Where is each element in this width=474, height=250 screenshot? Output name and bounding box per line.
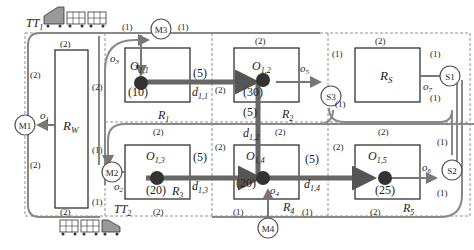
svg-text:(30): (30) [243,85,263,99]
machine-m2: M2 [102,162,122,182]
svg-text:(2): (2) [370,207,381,217]
machine-s2: S2 [442,160,462,180]
svg-text:o6: o6 [422,161,432,175]
svg-text:o1: o1 [40,109,49,123]
svg-text:(2): (2) [215,85,226,95]
svg-text:(2): (2) [92,82,103,92]
svg-text:R5: R5 [402,201,414,217]
production-layout-diagram: M1 M2 M3 M4 S1 S2 S3 TT1 TT2 RW RS R1 R2… [0,0,474,250]
svg-text:(1): (1) [178,22,189,32]
svg-text:S2: S2 [447,166,457,176]
svg-text:(2): (2) [153,207,164,217]
svg-text:(10): (10) [128,85,148,99]
machine-m3: M3 [151,19,171,39]
svg-text:(2): (2) [378,127,389,137]
svg-text:(5): (5) [305,152,319,166]
svg-text:(25): (25) [375,183,395,197]
svg-text:d1,1: d1,1 [192,85,208,101]
svg-text:(1): (1) [92,145,103,155]
svg-text:M2: M2 [106,168,119,178]
svg-text:(20): (20) [146,183,166,197]
machine-m4: M4 [258,218,278,238]
svg-text:(1): (1) [92,197,103,207]
svg-text:(1): (1) [335,99,346,109]
svg-text:R4: R4 [282,200,294,216]
svg-text:(1): (1) [233,207,244,217]
svg-text:o7: o7 [423,80,433,94]
train-tt1: TT1 [26,7,106,32]
svg-text:(2): (2) [215,142,226,152]
svg-text:(5): (5) [243,105,257,119]
svg-text:TT2: TT2 [114,202,131,218]
svg-text:(2): (2) [333,142,344,152]
svg-text:(1): (1) [122,22,133,32]
svg-text:(1): (1) [430,49,441,59]
svg-text:(5): (5) [193,150,207,164]
svg-text:M4: M4 [262,224,275,234]
svg-text:(1): (1) [302,207,313,217]
svg-text:(2): (2) [275,127,286,137]
machine-s1: S1 [440,66,460,86]
svg-text:TT1: TT1 [26,16,43,32]
svg-text:(2): (2) [30,70,41,80]
svg-text:(2): (2) [255,36,266,46]
svg-text:M1: M1 [19,121,32,131]
svg-text:(1): (1) [430,93,441,103]
node-o14 [256,171,270,185]
svg-text:(20): (20) [236,176,256,190]
svg-text:o2: o2 [114,180,124,194]
svg-text:R1: R1 [157,108,169,124]
svg-text:(5): (5) [193,66,207,80]
machine-m1: M1 [15,115,35,135]
svg-text:R2: R2 [281,107,293,123]
svg-text:M3: M3 [155,25,168,35]
svg-text:(1): (1) [437,137,448,147]
svg-text:(1): (1) [332,49,343,59]
svg-text:(2): (2) [60,39,71,49]
svg-text:o3: o3 [110,52,120,66]
svg-text:(2): (2) [60,207,71,217]
svg-text:(2): (2) [30,160,41,170]
svg-text:(2): (2) [153,127,164,137]
svg-text:(2): (2) [375,36,386,46]
svg-text:o5: o5 [300,62,310,76]
svg-text:(1): (1) [437,188,448,198]
svg-text:S1: S1 [445,72,455,82]
svg-text:d1,3: d1,3 [192,179,208,195]
